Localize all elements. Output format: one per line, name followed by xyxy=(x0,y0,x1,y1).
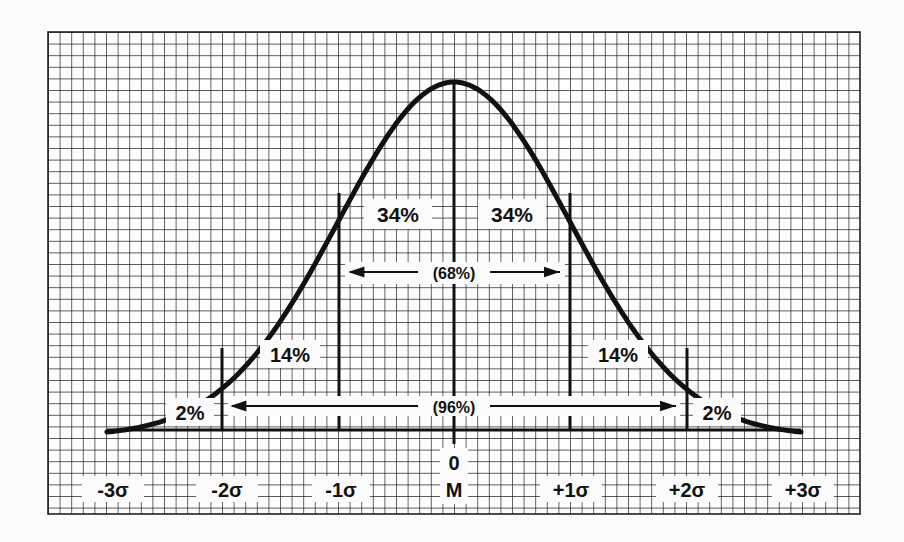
pct-label-right-outer: 2% xyxy=(703,402,732,424)
pct-label-left-mid: 14% xyxy=(270,344,310,366)
tick-mean: M xyxy=(446,479,463,501)
normal-distribution-chart: 2% 14% 34% 34% 14% 2% (68%) (96%) -3σ -2… xyxy=(0,0,904,542)
pct-label-right-inner: 34% xyxy=(491,203,533,226)
span-68-label: (68%) xyxy=(433,265,476,282)
span-96-label: (96%) xyxy=(433,399,476,416)
tick-minus-1-sigma: -1σ xyxy=(325,479,357,501)
tick-minus-2-sigma: -2σ xyxy=(211,479,243,501)
tick-minus-3-sigma: -3σ xyxy=(97,479,129,501)
tick-plus-2-sigma: +2σ xyxy=(669,479,706,501)
tick-plus-1-sigma: +1σ xyxy=(553,479,590,501)
tick-zero: 0 xyxy=(448,452,459,474)
tick-plus-3-sigma: +3σ xyxy=(785,479,822,501)
pct-label-left-inner: 34% xyxy=(377,203,419,226)
pct-label-right-mid: 14% xyxy=(598,344,638,366)
pct-label-left-outer: 2% xyxy=(176,402,205,424)
